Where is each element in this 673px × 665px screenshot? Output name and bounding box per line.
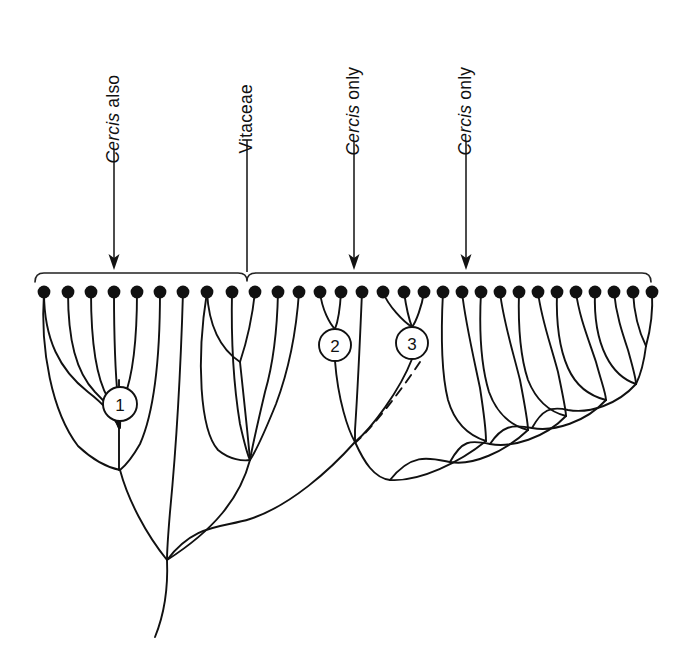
tip-dot bbox=[646, 286, 659, 299]
branch-ladder-rung-4 bbox=[557, 292, 606, 400]
branch-tip-10 bbox=[240, 292, 255, 362]
tip-dot bbox=[437, 286, 450, 299]
branch-tip-9 bbox=[207, 292, 240, 362]
annotation-label-cercis-only-1: Cercis only bbox=[345, 67, 363, 156]
branch-root-tail bbox=[155, 560, 167, 637]
tip-dot bbox=[608, 286, 621, 299]
tip-dot bbox=[154, 286, 167, 299]
annotation-label-cercis-only-1-qualifier: only bbox=[343, 67, 363, 105]
branch-ladder-tip-7 bbox=[633, 292, 646, 346]
clade-marker-3[interactable]: 3 bbox=[396, 327, 428, 359]
branch-tip-8-long bbox=[167, 292, 183, 560]
branch-ladder-rung-3 bbox=[519, 292, 566, 416]
branch-clade-A-stem bbox=[120, 470, 167, 560]
annotation-label-cercis-only-2: Cercis only bbox=[457, 67, 475, 156]
tip-dot bbox=[38, 286, 51, 299]
tip-dot bbox=[398, 286, 411, 299]
branch-ladder-tip-1 bbox=[462, 292, 486, 441]
clade-marker-3-label: 3 bbox=[407, 335, 416, 354]
annotation-leaders bbox=[109, 140, 472, 272]
tip-dot bbox=[85, 286, 98, 299]
tip-dot bbox=[177, 286, 190, 299]
tip-dot bbox=[456, 286, 469, 299]
annotation-label-cercis-only-2-genus: Cercis bbox=[455, 105, 475, 156]
tip-dot bbox=[226, 286, 239, 299]
tip-dot bbox=[475, 286, 488, 299]
branch-clade-C-stem bbox=[167, 442, 355, 560]
branch-tip-12 bbox=[250, 292, 299, 460]
branch-tip-7 bbox=[43, 292, 120, 470]
taxon-span-bracket bbox=[35, 273, 651, 282]
branch-tip-11 bbox=[250, 292, 278, 460]
tip-dot bbox=[293, 286, 306, 299]
branch-node-2-stem bbox=[335, 361, 355, 442]
branch-ladder-join-6 bbox=[636, 346, 646, 384]
branch-ladder-join-5 bbox=[532, 384, 636, 428]
branch-ladder-tip-3 bbox=[538, 292, 566, 416]
terminal-tip-dots bbox=[38, 286, 659, 299]
tip-dot bbox=[570, 286, 583, 299]
tip-dot bbox=[589, 286, 602, 299]
tip-dot bbox=[532, 286, 545, 299]
annotation-label-cercis-also-qualifier: also bbox=[103, 75, 123, 113]
tip-dot bbox=[377, 286, 390, 299]
annotation-label-vitaceae: Vitaceae bbox=[238, 84, 256, 153]
branch-node-3-stem bbox=[355, 359, 412, 442]
branch-ladder-join-2 bbox=[390, 430, 528, 480]
tip-dot bbox=[335, 286, 348, 299]
annotation-label-cercis-only-1-genus: Cercis bbox=[343, 105, 363, 156]
clade-marker-2[interactable]: 2 bbox=[319, 329, 351, 361]
annotation-label-cercis-also-genus: Cercis bbox=[103, 113, 123, 164]
branch-tip-16-long bbox=[355, 292, 362, 442]
tip-dot bbox=[131, 286, 144, 299]
tip-dot bbox=[272, 286, 285, 299]
tip-dot bbox=[494, 286, 507, 299]
tip-dot bbox=[551, 286, 564, 299]
branch-ladder-tip-8 bbox=[646, 292, 652, 346]
clade-marker-1-label: 1 bbox=[115, 396, 124, 415]
tip-dot bbox=[249, 286, 262, 299]
branch-ladder-join-1 bbox=[355, 441, 486, 480]
phylogenetic-tree-figure: 1 2 3 Cercis also Vitaceae Cercis only C… bbox=[0, 0, 673, 665]
tree-canvas: 1 2 3 bbox=[0, 0, 673, 665]
tip-dot bbox=[314, 286, 327, 299]
annotation-label-vitaceae-text: Vitaceae bbox=[236, 84, 256, 153]
tip-dot bbox=[356, 286, 369, 299]
annotation-label-cercis-only-2-qualifier: only bbox=[455, 67, 475, 105]
branch-ladder-tip-6 bbox=[614, 292, 636, 384]
tip-dot bbox=[201, 286, 214, 299]
tip-dot bbox=[627, 286, 640, 299]
tip-dot bbox=[62, 286, 75, 299]
clade-marker-2-label: 2 bbox=[330, 337, 339, 356]
tip-dot bbox=[418, 286, 431, 299]
tip-dot bbox=[108, 286, 121, 299]
tip-dot bbox=[513, 286, 526, 299]
annotation-label-cercis-also: Cercis also bbox=[105, 75, 123, 164]
branch-tip-6 bbox=[120, 292, 160, 470]
clade-marker-1[interactable]: 1 bbox=[103, 387, 137, 421]
